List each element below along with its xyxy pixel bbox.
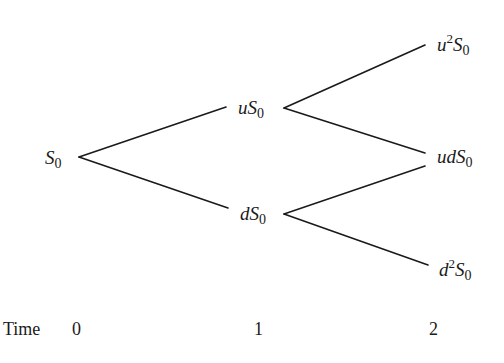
edge-ds0-uds0 xyxy=(284,166,425,214)
node-uds0: udS0 xyxy=(437,146,473,170)
edge-s0-ds0 xyxy=(79,157,228,208)
edge-us0-uds0 xyxy=(284,108,425,153)
time-tick-1: 1 xyxy=(254,319,263,339)
node-s0: S0 xyxy=(45,147,62,171)
node-us0: uS0 xyxy=(238,97,264,121)
tree-nodes: S0 uS0 dS0 u2S0 udS0 d2S0 xyxy=(45,31,473,283)
node-u2s0: u2S0 xyxy=(437,31,470,58)
time-tick-2: 2 xyxy=(429,319,438,339)
node-d2s0: d2S0 xyxy=(439,256,472,283)
edge-ds0-d2s0 xyxy=(284,214,428,265)
time-axis: Time 0 1 2 xyxy=(3,319,438,339)
node-ds0: dS0 xyxy=(240,203,266,227)
edge-us0-u2s0 xyxy=(284,45,425,108)
tree-edges xyxy=(79,45,428,265)
time-axis-label: Time xyxy=(3,319,40,339)
time-tick-0: 0 xyxy=(72,319,81,339)
edge-s0-us0 xyxy=(79,107,226,157)
binomial-tree-diagram: S0 uS0 dS0 u2S0 udS0 d2S0 Time 0 1 2 xyxy=(0,0,504,363)
